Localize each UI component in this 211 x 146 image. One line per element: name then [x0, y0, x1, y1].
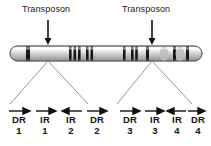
transposon-label-left: Transposon — [22, 4, 70, 14]
repeat-element-dr-3: DR 3 — [117, 114, 143, 137]
repeat-element-dr-2: DR 2 — [84, 114, 110, 137]
repeat-number-ir-1: 1 — [32, 125, 58, 137]
repeat-code-ir-1: IR — [32, 114, 58, 125]
transposon-label-right: Transposon — [122, 4, 170, 14]
guide-lines-left — [10, 61, 88, 104]
repeat-element-dr-1: DR 1 — [6, 114, 32, 137]
repeat-code-dr-4: DR — [185, 114, 211, 125]
repeat-element-ir-1: IR 1 — [32, 114, 58, 137]
repeat-code-dr-3: DR — [117, 114, 143, 125]
repeat-number-dr-4: 4 — [185, 125, 211, 137]
transposon-arrow-right — [149, 20, 156, 45]
repeat-number-dr-1: 1 — [6, 125, 32, 137]
guide-lines-right — [117, 61, 192, 104]
chromosome-bar — [10, 46, 202, 61]
repeat-number-dr-2: 2 — [84, 125, 110, 137]
repeat-code-ir-2: IR — [58, 114, 84, 125]
repeat-code-dr-1: DR — [6, 114, 32, 125]
repeat-number-dr-3: 3 — [117, 125, 143, 137]
figure-canvas: Transposon Transposon DR 1 IR 1 IR 2 DR … — [0, 0, 211, 146]
repeat-element-ir-2: IR 2 — [58, 114, 84, 137]
repeat-element-dr-4: DR 4 — [185, 114, 211, 137]
repeat-code-dr-2: DR — [84, 114, 110, 125]
transposon-arrow-left — [45, 20, 52, 45]
repeat-number-ir-2: 2 — [58, 125, 84, 137]
